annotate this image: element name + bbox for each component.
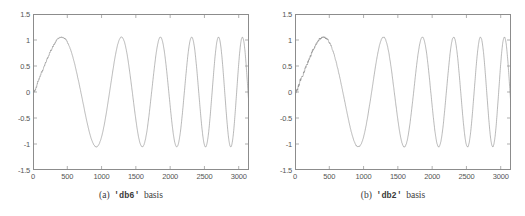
caption-label-b: (b) — [361, 190, 372, 200]
caption-basis-b: 'db2' — [376, 191, 402, 201]
y-tick-label: 1 — [26, 36, 30, 45]
plot-curve-a — [33, 14, 249, 170]
y-tick-label: -1.5 — [18, 166, 30, 175]
panel-caption-b: (b) 'db2' basis — [262, 190, 524, 201]
x-tick-label: 0 — [31, 172, 35, 181]
signal-path — [33, 37, 249, 147]
caption-word-b: basis — [406, 190, 425, 200]
y-tick-label: -1.5 — [280, 166, 292, 175]
x-tick-label: 1000 — [94, 172, 110, 181]
x-tick-label: 2000 — [424, 172, 440, 181]
x-tick-label: 1500 — [390, 172, 406, 181]
plot-curve-b — [295, 14, 511, 170]
caption-word-a: basis — [144, 190, 163, 200]
figure-panels-row: -1.5-1-0.500.511.5 050010001500200025003… — [0, 0, 525, 216]
y-tick-label: -0.5 — [280, 114, 292, 123]
y-tick-label: -0.5 — [18, 114, 30, 123]
x-tick-label: 500 — [323, 172, 335, 181]
plot-area-a: -1.5-1-0.500.511.5 050010001500200025003… — [33, 14, 249, 170]
figure-panel-b: -1.5-1-0.500.511.5 050010001500200025003… — [262, 0, 524, 216]
x-tick-label: 2500 — [196, 172, 212, 181]
panel-caption-a: (a) 'db6' basis — [0, 190, 262, 201]
y-tick-label: -1 — [286, 140, 292, 149]
x-tick-label: 1500 — [128, 172, 144, 181]
caption-label-a: (a) — [99, 190, 110, 200]
y-tick-label: -1 — [24, 140, 30, 149]
y-tick-label: 0 — [288, 88, 292, 97]
y-tick-label: 1.5 — [282, 10, 292, 19]
x-tick-label: 2500 — [458, 172, 474, 181]
y-tick-label: 0.5 — [282, 62, 292, 71]
signal-path — [295, 37, 511, 147]
y-tick-label: 1.5 — [20, 10, 30, 19]
x-tick-label: 2000 — [162, 172, 178, 181]
caption-basis-a: 'db6' — [114, 191, 140, 201]
y-tick-label: 1 — [288, 36, 292, 45]
x-tick-label: 500 — [61, 172, 73, 181]
plot-area-b: -1.5-1-0.500.511.5 050010001500200025003… — [295, 14, 511, 170]
figure-panel-a: -1.5-1-0.500.511.5 050010001500200025003… — [0, 0, 262, 216]
x-tick-label: 3000 — [493, 172, 509, 181]
x-tick-label: 1000 — [356, 172, 372, 181]
y-tick-label: 0 — [26, 88, 30, 97]
x-tick-label: 0 — [293, 172, 297, 181]
x-tick-label: 3000 — [231, 172, 247, 181]
y-tick-label: 0.5 — [20, 62, 30, 71]
